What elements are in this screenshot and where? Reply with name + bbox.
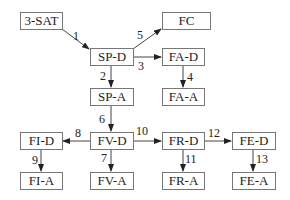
edge-label-4: 4 — [187, 71, 193, 83]
edge-label-13: 13 — [256, 153, 268, 165]
node-fv-d: FV-D — [90, 132, 134, 150]
node-sp-d: SP-D — [90, 48, 134, 66]
node-fr-d: FR-D — [162, 132, 205, 150]
edge-label-1: 1 — [73, 30, 79, 42]
edge-label-2: 2 — [100, 70, 106, 82]
node-fa-d: FA-D — [162, 48, 205, 66]
edge-label-7: 7 — [101, 152, 107, 164]
edge-label-11: 11 — [185, 153, 197, 165]
edge-label-9: 9 — [32, 154, 38, 166]
edge-label-10: 10 — [136, 125, 148, 137]
edge-label-5: 5 — [137, 29, 143, 41]
node-fc: FC — [162, 12, 211, 30]
edge-label-6: 6 — [99, 113, 105, 125]
node-3-sat: 3-SAT — [20, 12, 63, 30]
node-fi-a: FI-A — [20, 172, 63, 190]
edge-label-12: 12 — [208, 127, 220, 139]
node-fa-a: FA-A — [162, 88, 205, 106]
edge-label-8: 8 — [75, 127, 81, 139]
node-fr-a: FR-A — [162, 172, 205, 190]
node-fv-a: FV-A — [90, 172, 134, 190]
node-sp-a: SP-A — [90, 88, 134, 106]
edges-layer — [0, 0, 290, 200]
node-fe-a: FE-A — [232, 172, 276, 190]
edge-label-3: 3 — [138, 60, 144, 72]
node-fi-d: FI-D — [20, 132, 63, 150]
node-fe-d: FE-D — [232, 132, 276, 150]
